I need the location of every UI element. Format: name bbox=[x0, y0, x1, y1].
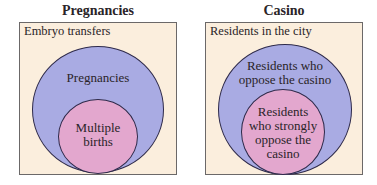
pregnancies-diagram: Pregnancies Embryo transfers Pregnancies… bbox=[8, 0, 188, 185]
universe-box: Embryo transfers Pregnancies Multiple bi… bbox=[19, 22, 177, 175]
diagram-title: Casino bbox=[194, 3, 374, 19]
universe-label: Embryo transfers bbox=[24, 24, 110, 39]
universe-box: Residents in the city Residents who oppo… bbox=[205, 22, 363, 175]
outer-set-label: Residents who oppose the casino bbox=[218, 59, 352, 87]
universe-label: Residents in the city bbox=[210, 24, 312, 39]
casino-diagram: Casino Residents in the city Residents w… bbox=[194, 0, 374, 185]
diagram-title: Pregnancies bbox=[8, 3, 188, 19]
outer-set-label: Pregnancies bbox=[32, 71, 164, 85]
inner-set-label: Residents who strongly oppose the casino bbox=[241, 105, 325, 161]
inner-set-label: Multiple births bbox=[58, 121, 138, 149]
